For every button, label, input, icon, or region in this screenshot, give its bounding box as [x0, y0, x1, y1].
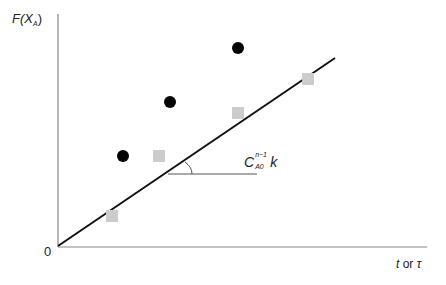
fit-line — [58, 58, 335, 246]
data-point-square — [106, 210, 118, 222]
x-axis-label: t or τ — [396, 257, 421, 271]
data-point-circle — [164, 96, 176, 108]
slope-angle-arc — [185, 162, 192, 174]
x-label-or: or — [399, 257, 416, 271]
x-label-tau: τ — [417, 257, 422, 271]
y-label-subscript: A — [33, 20, 38, 27]
slope-label: Cn−1A0k — [244, 154, 277, 170]
y-label-close: ) — [38, 11, 42, 26]
slope-label-c: C — [244, 154, 254, 170]
origin-label: 0 — [44, 244, 51, 259]
y-axis-label: F(XA) — [12, 11, 42, 26]
data-point-square — [153, 150, 165, 162]
y-label-main: F(X — [12, 11, 33, 26]
slope-label-subscript: A0 — [255, 163, 264, 170]
data-point-circle — [232, 42, 244, 54]
data-point-circle — [117, 150, 129, 162]
slope-label-superscript: n−1 — [255, 151, 267, 158]
slope-label-k: k — [270, 154, 277, 170]
chart-canvas — [0, 0, 446, 285]
data-point-square — [232, 107, 244, 119]
data-point-square — [302, 73, 314, 85]
